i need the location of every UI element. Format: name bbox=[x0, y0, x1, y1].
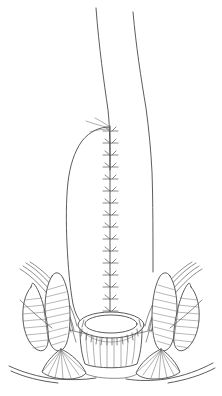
anastomotic-ring-outer bbox=[78, 312, 144, 338]
surgical-illustration-figure bbox=[0, 0, 222, 396]
illustration-canvas bbox=[0, 0, 222, 396]
